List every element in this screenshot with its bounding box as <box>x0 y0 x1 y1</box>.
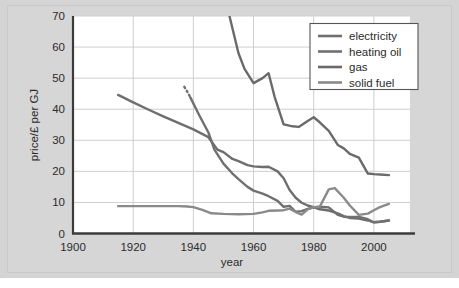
y-tick-label: 70 <box>52 10 65 22</box>
x-tick-label: 2000 <box>361 241 387 253</box>
y-tick-label: 10 <box>52 196 65 208</box>
legend-label-solid-fuel: solid fuel <box>349 77 394 89</box>
y-tick-label: 20 <box>52 165 65 177</box>
energy-price-line-chart: 010203040506070 190019201940196019802000… <box>0 0 459 288</box>
chart-page: 010203040506070 190019201940196019802000… <box>0 0 459 288</box>
y-tick-label: 60 <box>52 41 65 53</box>
legend-label-electricity: electricity <box>349 30 397 42</box>
y-tick-labels: 010203040506070 <box>52 10 65 240</box>
y-tick-label: 30 <box>52 134 65 146</box>
x-tick-label: 1920 <box>120 241 146 253</box>
y-tick-label: 50 <box>52 72 65 84</box>
x-axis-title: year <box>221 256 244 268</box>
legend-label-gas: gas <box>349 61 368 73</box>
y-tick-label: 40 <box>52 103 65 115</box>
x-tick-label: 1980 <box>301 241 327 253</box>
x-tick-label: 1940 <box>181 241 207 253</box>
legend-label-heating-oil: heating oil <box>349 46 401 58</box>
chart-legend: electricityheating oilgassolid fuel <box>310 24 418 90</box>
y-axis-title: price/£ per GJ <box>28 89 40 161</box>
x-tick-label: 1900 <box>60 241 86 253</box>
x-tick-label: 1960 <box>241 241 267 253</box>
y-tick-label: 0 <box>59 228 65 240</box>
x-tick-labels: 190019201940196019802000 <box>60 241 386 253</box>
